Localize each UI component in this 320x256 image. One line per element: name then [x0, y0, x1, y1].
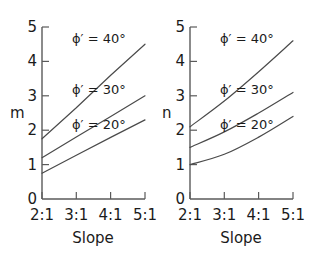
x-tick-label-4to1: 4:1 [247, 206, 271, 224]
y-tick-label-5: 5 [175, 18, 185, 36]
y-tick-label-2: 2 [27, 121, 37, 139]
annotation-phi-30: ϕ′ = 30° [72, 82, 126, 97]
annotation-phi-30: ϕ′ = 30° [220, 82, 274, 97]
annotation-phi-20: ϕ′ = 20° [72, 117, 126, 132]
chart-panel-m: 5 4 3 2 1 0 2:1 3:1 4:1 5:1 m Slope ϕ′ [0, 0, 160, 256]
x-tick-label-2to1: 2:1 [178, 206, 202, 224]
x-tick-label-4to1: 4:1 [99, 206, 123, 224]
annotation-phi-40: ϕ′ = 40° [72, 31, 126, 46]
y-axis-title-n: n [162, 104, 172, 122]
y-tick-label-4: 4 [175, 52, 185, 70]
chart-m-svg: 5 4 3 2 1 0 2:1 3:1 4:1 5:1 m Slope ϕ′ [0, 0, 160, 256]
y-tick-label-5: 5 [27, 18, 37, 36]
x-tick-label-3to1: 3:1 [64, 206, 88, 224]
annotation-phi-40: ϕ′ = 40° [220, 31, 274, 46]
x-tick-label-5to1: 5:1 [281, 206, 305, 224]
x-axis-title-slope: Slope [220, 229, 262, 247]
chart-n-svg: 5 4 3 2 1 0 2:1 3:1 4:1 5:1 n Slope ϕ′ [160, 0, 320, 256]
y-tick-label-1: 1 [175, 156, 185, 174]
x-tick-label-2to1: 2:1 [30, 206, 54, 224]
figure-container: 5 4 3 2 1 0 2:1 3:1 4:1 5:1 m Slope ϕ′ [0, 0, 320, 256]
chart-panel-n: 5 4 3 2 1 0 2:1 3:1 4:1 5:1 n Slope ϕ′ [160, 0, 320, 256]
y-tick-label-3: 3 [175, 87, 185, 105]
y-tick-label-1: 1 [27, 156, 37, 174]
x-tick-label-5to1: 5:1 [133, 206, 157, 224]
y-tick-label-3: 3 [27, 87, 37, 105]
y-tick-label-2: 2 [175, 121, 185, 139]
x-axis-title-slope: Slope [72, 229, 114, 247]
y-tick-label-4: 4 [27, 52, 37, 70]
y-axis-title-m: m [10, 104, 25, 122]
x-tick-label-3to1: 3:1 [212, 206, 236, 224]
annotation-phi-20: ϕ′ = 20° [220, 117, 274, 132]
